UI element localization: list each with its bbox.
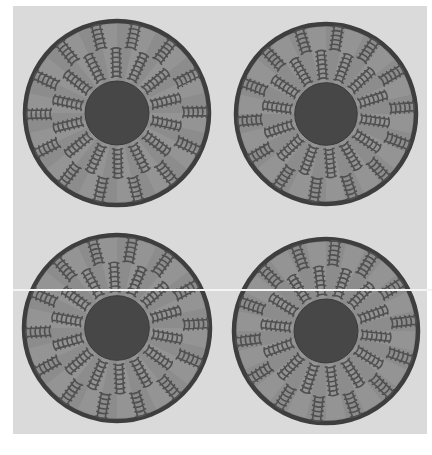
basket-top-right — [236, 24, 416, 204]
basket-center-disc — [294, 299, 358, 363]
baskets-illustration — [0, 0, 432, 455]
basket-center-disc — [85, 296, 150, 361]
basket-bottom-left — [24, 235, 210, 421]
basket-center-disc — [85, 81, 149, 145]
scan-artifact-line — [13, 289, 432, 291]
basket-top-left — [25, 21, 209, 205]
basket-center-disc — [295, 83, 358, 146]
basket-bottom-right — [234, 239, 418, 423]
